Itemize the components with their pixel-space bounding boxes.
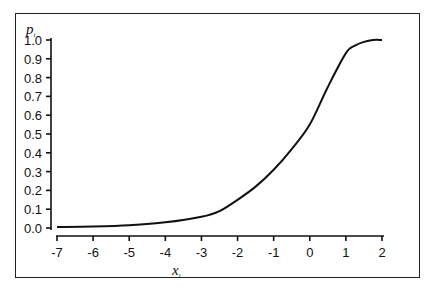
axes [46, 38, 384, 241]
y-tick-label: 0.2 [24, 183, 42, 198]
x-tick-label: -6 [87, 245, 99, 260]
y-tick-label: 0.9 [24, 52, 42, 67]
y-tick-label: 0.4 [24, 146, 42, 161]
y-tick-label: 0.8 [24, 71, 42, 86]
x-tick-label: -7 [51, 245, 63, 260]
y-tick-label: 0.3 [24, 165, 42, 180]
y-tick-label: 0.6 [24, 108, 42, 123]
y-tick-label: 0.7 [24, 89, 42, 104]
x-tick-label: -3 [196, 245, 208, 260]
x-tick-label: 0 [306, 245, 313, 260]
x-tick-label: -2 [232, 245, 244, 260]
x-tick-label: -4 [160, 245, 172, 260]
y-tick-label: 0.0 [24, 221, 42, 236]
y-axis-label: pi [25, 21, 36, 39]
x-tick-label: 2 [378, 245, 385, 260]
data-curve [57, 40, 382, 227]
y-tick-label: 0.1 [24, 202, 42, 217]
x-tick-label: 1 [342, 245, 349, 260]
x-tick-label: -5 [123, 245, 135, 260]
y-tick-label: 0.5 [24, 127, 42, 142]
x-axis-label: xi [171, 262, 181, 280]
line-chart: 0.00.10.20.30.40.50.60.70.80.91.0-7-6-5-… [0, 0, 433, 292]
x-tick-label: -1 [268, 245, 280, 260]
